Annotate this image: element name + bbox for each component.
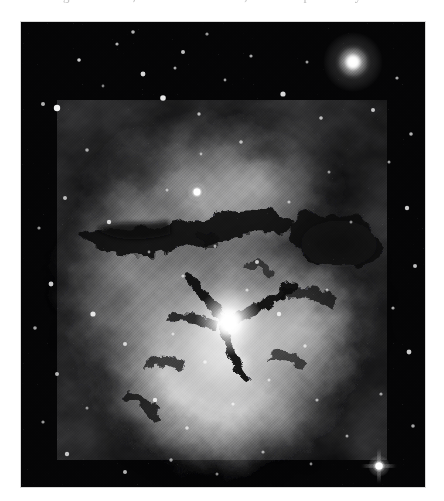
clipped-text-line: sinking of the stars, the faintest of th…: [0, 0, 444, 9]
nebula-canvas: [21, 22, 425, 487]
figure-plate: [21, 22, 425, 487]
upper-lobe-star: [187, 182, 207, 202]
bright-field-star-upper-right: [323, 32, 383, 92]
nebula-photograph: [21, 22, 425, 487]
clipped-text-line-content: sinking of the stars, the faintest of th…: [30, 0, 420, 2]
star-field: [21, 22, 425, 487]
